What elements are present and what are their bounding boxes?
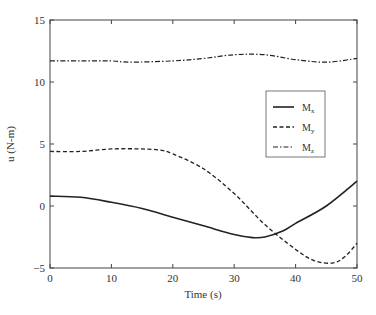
- line-chart: 01020304050 −5051015 Time (s) u (N-m) Mx…: [0, 0, 376, 315]
- x-tick-label: 50: [352, 272, 364, 284]
- x-axis-title: Time (s): [184, 288, 222, 301]
- x-tick-label: 20: [167, 272, 179, 284]
- x-tick-label: 10: [106, 272, 118, 284]
- y-tick-label: −5: [33, 262, 45, 274]
- y-axis-title: u (N-m): [4, 126, 17, 162]
- x-tick-label: 30: [229, 272, 241, 284]
- x-tick-label: 0: [47, 272, 53, 284]
- y-tick-label: 5: [40, 138, 46, 150]
- y-tick-label: 10: [34, 76, 46, 88]
- y-tick-label: 15: [34, 14, 46, 26]
- x-tick-label: 40: [290, 272, 302, 284]
- y-tick-label: 0: [40, 200, 46, 212]
- legend: MxMyMz: [266, 91, 325, 157]
